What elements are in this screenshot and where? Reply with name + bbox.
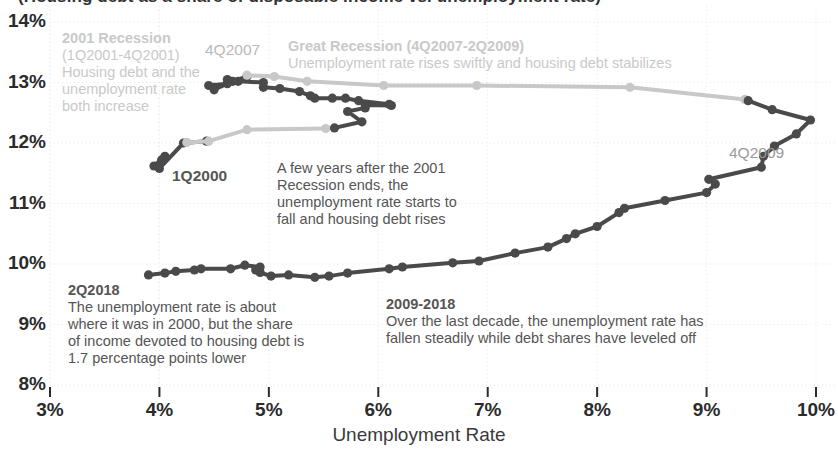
annotation-recession-2001: 2001 Recession(1Q2001-4Q2001)Housing deb… <box>62 30 212 116</box>
data-point <box>343 269 352 278</box>
data-point <box>768 105 777 114</box>
data-point <box>266 272 275 281</box>
data-point <box>275 84 284 93</box>
x-tick-label: 4% <box>129 399 189 421</box>
annotation-line: where it was in 2000, but the share <box>68 316 368 333</box>
annotation-line: fall and housing debt rises <box>277 211 507 228</box>
annotation-post-2001-note: A few years after the 2001Recession ends… <box>277 160 507 228</box>
y-tick-label: 12% <box>0 131 46 153</box>
x-tick-label: 10% <box>786 399 838 421</box>
data-point <box>806 115 815 124</box>
data-point <box>171 267 180 276</box>
y-tick-label: 8% <box>0 373 46 395</box>
annotation-great-recession: Great Recession (4Q2007-2Q2009)Unemploym… <box>288 38 758 72</box>
data-point <box>182 138 191 147</box>
data-point <box>204 137 213 146</box>
data-point <box>792 129 801 138</box>
y-tick-label: 9% <box>0 313 46 335</box>
y-tick-label: 13% <box>0 71 46 93</box>
data-point <box>155 164 164 173</box>
data-point <box>321 124 330 133</box>
data-point <box>328 94 337 103</box>
x-tick-label: 6% <box>348 399 408 421</box>
data-point <box>474 256 483 265</box>
annotation-line: Over the last decade, the unemployment r… <box>386 313 796 330</box>
data-point <box>660 196 669 205</box>
data-point <box>284 270 293 279</box>
annotation-line: A few years after the 2001 <box>277 160 507 177</box>
data-point <box>543 243 552 252</box>
x-tick-label: 3% <box>20 399 80 421</box>
data-point <box>472 81 481 90</box>
annotation-heading: 2009-2018 <box>386 296 796 313</box>
data-point <box>448 258 457 267</box>
data-point <box>562 234 571 243</box>
annotation-note-2q2018: 2Q2018The unemployment rate is aboutwher… <box>68 282 368 368</box>
annotation-note-2009-2018: 2009-2018Over the last decade, the unemp… <box>386 296 796 347</box>
data-point <box>256 262 265 271</box>
data-point <box>357 117 366 126</box>
data-point <box>510 249 519 258</box>
data-point <box>303 77 312 86</box>
data-point <box>330 123 339 132</box>
data-point <box>157 155 166 164</box>
data-point <box>324 272 333 281</box>
data-point <box>702 188 711 197</box>
data-point <box>614 208 623 217</box>
data-point <box>259 78 268 87</box>
annotation-line: unemployment rate <box>62 81 212 98</box>
data-point <box>593 222 602 231</box>
y-tick-label: 10% <box>0 252 46 274</box>
data-point <box>398 262 407 271</box>
data-point <box>240 261 249 270</box>
x-tick-label: 5% <box>239 399 299 421</box>
x-axis-title: Unemployment Rate <box>0 424 838 446</box>
label-4q2007: 4Q2007 <box>205 41 260 59</box>
data-point <box>310 273 319 282</box>
annotation-line: both increase <box>62 98 212 115</box>
data-point <box>270 72 279 81</box>
annotation-heading: 2001 Recession <box>62 30 212 47</box>
annotation-heading: Great Recession (4Q2007-2Q2009) <box>288 38 758 55</box>
label-4q2009: 4Q2009 <box>729 144 784 162</box>
data-point <box>160 269 169 278</box>
annotation-line: Housing debt and the <box>62 64 212 81</box>
data-point <box>306 91 315 100</box>
data-point <box>385 100 394 109</box>
data-point <box>190 265 199 274</box>
data-point <box>571 229 580 238</box>
x-tick-label: 8% <box>567 399 627 421</box>
data-point <box>341 94 350 103</box>
data-point <box>711 180 720 189</box>
annotation-line: Recession ends, the <box>277 177 507 194</box>
chart-canvas: (Housing debt as a share of disposable i… <box>0 0 838 454</box>
data-point <box>242 71 251 80</box>
annotation-line: unemployment rate starts to <box>277 194 507 211</box>
data-point <box>226 264 235 273</box>
annotation-line: Unemployment rate rises swiftly and hous… <box>288 55 758 72</box>
data-point <box>343 107 352 116</box>
axis-ticks <box>50 387 816 397</box>
label-1q2000: 1Q2000 <box>172 167 227 185</box>
data-point <box>744 96 753 105</box>
data-point <box>757 163 766 172</box>
y-tick-label: 11% <box>0 192 46 214</box>
data-point <box>379 81 388 90</box>
x-tick-label: 7% <box>458 399 518 421</box>
data-point <box>144 270 153 279</box>
data-point <box>354 96 363 105</box>
annotation-line: of income devoted to housing debt is <box>68 333 368 350</box>
data-point <box>625 83 634 92</box>
y-tick-label: 14% <box>0 10 46 32</box>
annotation-line: The unemployment rate is about <box>68 299 368 316</box>
data-point <box>385 264 394 273</box>
annotation-line: (1Q2001-4Q2001) <box>62 47 212 64</box>
x-tick-label: 9% <box>677 399 737 421</box>
data-point <box>228 77 237 86</box>
annotation-line: fallen steadily while debt shares have l… <box>386 330 796 347</box>
data-point <box>295 87 304 96</box>
annotation-line: 1.7 percentage points lower <box>68 350 368 367</box>
annotation-heading: 2Q2018 <box>68 282 368 299</box>
data-point <box>242 125 251 134</box>
